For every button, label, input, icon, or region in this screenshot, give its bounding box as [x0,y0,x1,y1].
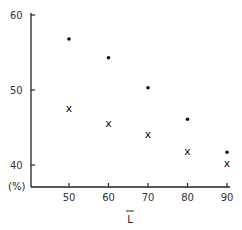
dot-marker [186,117,190,121]
axes: 4050605060708090(%)L [8,10,233,225]
dot-marker [67,37,71,41]
data-points: xxxxx [66,37,231,170]
x-tick-label: 50 [63,192,76,203]
x-axis-label: L [127,214,133,225]
scatter-chart: 4050605060708090(%)L xxxxx [0,0,242,230]
dot-marker [107,56,111,60]
cross-marker: x [105,117,112,130]
y-axis-label: (%) [8,181,25,192]
x-tick-label: 90 [221,192,234,203]
dot-marker [146,86,150,90]
x-tick-label: 70 [142,192,155,203]
dot-marker [225,150,229,154]
y-tick-label: 50 [10,85,23,96]
cross-marker: x [184,145,191,158]
cross-marker: x [145,128,152,141]
y-tick-label: 60 [10,10,23,21]
y-tick-label: 40 [10,160,23,171]
cross-marker: x [66,102,73,115]
x-tick-label: 60 [102,192,115,203]
cross-marker: x [224,157,231,170]
x-tick-label: 80 [181,192,194,203]
